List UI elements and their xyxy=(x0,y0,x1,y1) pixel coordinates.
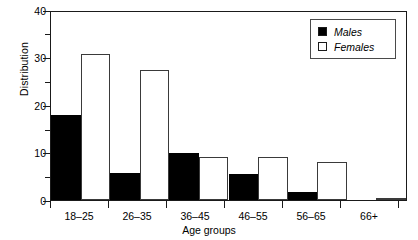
x-tick-0 xyxy=(50,201,51,208)
x-tick-4 xyxy=(282,201,283,208)
bar-females-56-65 xyxy=(317,162,347,200)
legend: Males Females xyxy=(310,19,396,59)
legend-label-females: Females xyxy=(334,41,374,53)
bar-females-26-35 xyxy=(140,70,170,200)
y-tick-major-0 xyxy=(43,201,50,202)
legend-label-males: Males xyxy=(334,26,362,38)
bar-males-46-55 xyxy=(229,174,259,200)
bar-females-66-plus xyxy=(376,198,406,200)
y-tick-label-0: 0 xyxy=(6,196,46,206)
bar-females-36-45 xyxy=(199,157,229,200)
x-tick-6 xyxy=(398,201,399,208)
bar-males-56-65 xyxy=(288,192,318,200)
y-tick-label-20: 20 xyxy=(6,101,46,111)
x-tick-2 xyxy=(166,201,167,208)
y-axis-label: Distribution xyxy=(18,9,30,129)
bar-females-18-25 xyxy=(81,54,111,200)
x-tick-3 xyxy=(224,201,225,208)
bar-males-26-35 xyxy=(110,173,140,200)
x-axis-label: Age groups xyxy=(0,224,418,236)
y-tick-label-10: 10 xyxy=(6,148,46,158)
x-tick-label-66-plus: 66+ xyxy=(334,210,404,222)
y-tick-major-40 xyxy=(43,11,50,12)
bar-males-36-45 xyxy=(169,153,199,200)
x-tick-1 xyxy=(108,201,109,208)
legend-entry-males: Males xyxy=(318,24,395,39)
legend-open-square-icon xyxy=(318,42,327,51)
legend-entry-females: Females xyxy=(318,39,395,54)
y-tick-label-30: 30 xyxy=(6,53,46,63)
bar-females-46-55 xyxy=(258,157,288,200)
y-tick-major-20 xyxy=(43,106,50,107)
y-tick-label-40: 40 xyxy=(6,6,46,16)
legend-filled-square-icon xyxy=(318,27,327,36)
x-tick-5 xyxy=(340,201,341,208)
bar-chart-figure: Distribution 0 10 20 30 40 xyxy=(0,0,418,240)
bar-males-18-25 xyxy=(51,115,81,200)
y-tick-major-10 xyxy=(43,153,50,154)
y-tick-major-30 xyxy=(43,58,50,59)
